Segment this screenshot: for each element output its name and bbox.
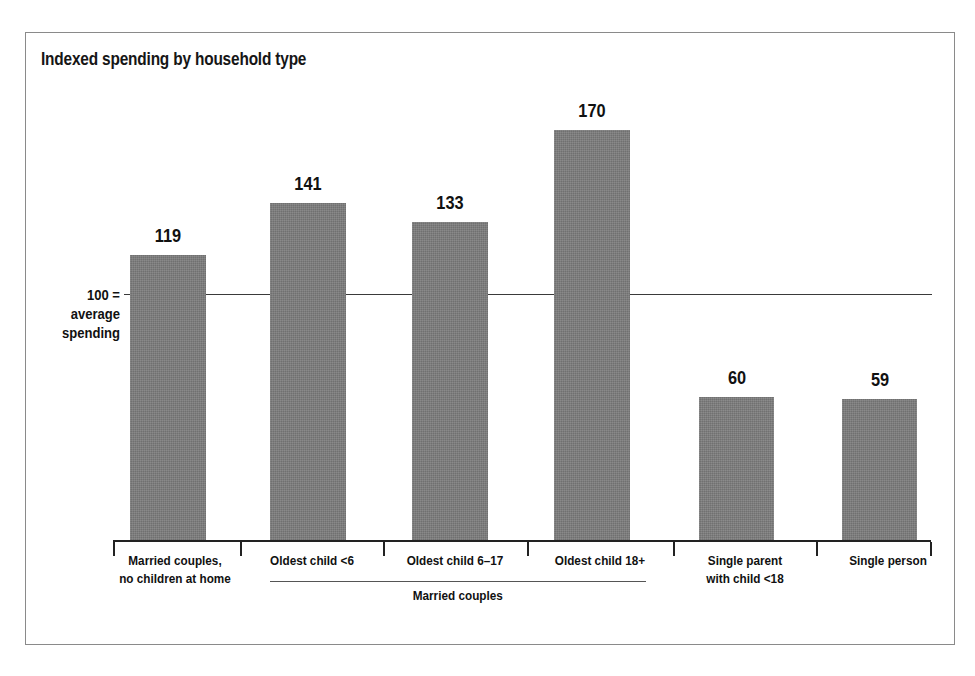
- category-label-line: Married couples,: [117, 552, 234, 570]
- category-label-oldest-child-6-17: Oldest child 6–17: [386, 552, 524, 570]
- category-label-single-parent: Single parent with child <18: [676, 552, 814, 588]
- category-label-line: Oldest child <6: [252, 552, 372, 570]
- bar-oldest-child-18-plus: [554, 130, 630, 541]
- axis-tick: [816, 542, 818, 556]
- bar-single-parent-child-under-18: [699, 397, 774, 541]
- category-label-line: Single person: [828, 552, 948, 570]
- bar-value-label: 119: [134, 225, 203, 247]
- bar-oldest-child-under-6: [270, 203, 346, 541]
- bar-married-no-children: [130, 255, 206, 541]
- reference-label-line3: spending: [33, 323, 120, 342]
- x-axis-baseline: [113, 540, 931, 542]
- category-label-line: no children at home: [117, 570, 234, 588]
- bar-value-label: 60: [703, 367, 772, 389]
- axis-tick: [673, 542, 675, 556]
- bar-oldest-child-6-17: [412, 222, 488, 541]
- category-label-line: Oldest child 6–17: [395, 552, 515, 570]
- category-label-single-person: Single person: [819, 552, 957, 570]
- category-label-oldest-child-under-6: Oldest child <6: [243, 552, 381, 570]
- bar-value-label: 59: [846, 369, 915, 391]
- bar-value-label: 141: [274, 173, 343, 195]
- group-bracket-label: Married couples: [270, 588, 646, 603]
- bar-single-person: [842, 399, 917, 541]
- reference-label-line1: 100 =: [33, 285, 120, 304]
- category-label-line: Single parent: [685, 552, 805, 570]
- bar-value-label: 133: [416, 192, 485, 214]
- category-label-line: with child <18: [685, 570, 805, 588]
- axis-tick: [527, 542, 529, 556]
- bar-value-label: 170: [558, 100, 627, 122]
- group-bracket-line: [270, 581, 646, 582]
- reference-label-line2: average: [33, 304, 120, 323]
- category-label-oldest-child-18-plus: Oldest child 18+: [530, 552, 670, 570]
- reference-line-100: [124, 294, 932, 295]
- plot-area: 100 = average spending 119 141 133 170 6…: [0, 0, 975, 676]
- chart-figure: Indexed spending by household type 100 =…: [0, 0, 975, 676]
- category-label-line: Oldest child 18+: [539, 552, 661, 570]
- reference-line-label: 100 = average spending: [33, 285, 120, 343]
- category-label-married-no-children: Married couples, no children at home: [108, 552, 242, 588]
- axis-tick: [383, 542, 385, 556]
